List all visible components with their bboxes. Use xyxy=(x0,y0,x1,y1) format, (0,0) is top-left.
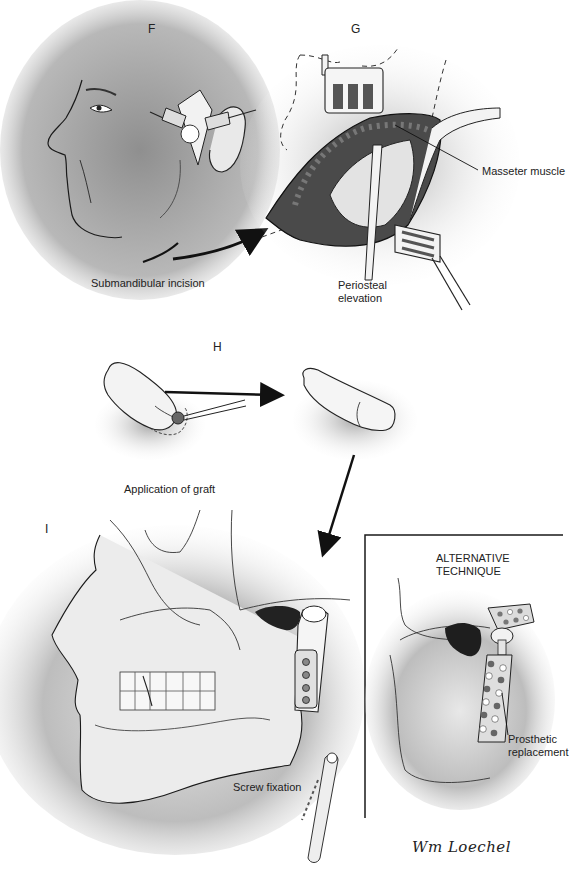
caption-submandibular-incision: Submandibular incision xyxy=(91,277,205,290)
panel-h-artwork xyxy=(95,363,417,548)
callout-prosthetic-replacement: Prosthetic replacement xyxy=(508,733,569,759)
panel-g-artwork xyxy=(240,45,520,310)
callout-masseter-muscle: Masseter muscle xyxy=(482,165,565,178)
callout-prosthetic-line-1: Prosthetic xyxy=(508,733,569,746)
panel-letter-h: H xyxy=(213,340,222,354)
panel-letter-f: F xyxy=(148,22,155,36)
inset-artwork xyxy=(365,578,555,810)
inset-title: ALTERNATIVE TECHNIQUE xyxy=(436,552,510,578)
panel-letter-g: G xyxy=(351,22,360,36)
teeth xyxy=(120,672,215,710)
callout-screw-fixation: Screw fixation xyxy=(233,781,301,794)
panel-f-artwork xyxy=(0,0,280,300)
inset-title-line-1: ALTERNATIVE xyxy=(436,552,510,565)
panel-letter-i: I xyxy=(45,522,48,536)
illustration-canvas xyxy=(0,0,577,869)
callout-prosthetic-line-2: replacement xyxy=(508,746,569,759)
caption-application-of-graft: Application of graft xyxy=(124,483,215,496)
artist-signature: Wm Loechel xyxy=(412,838,511,856)
caption-periosteal-elevation: Periosteal elevation xyxy=(338,279,398,305)
inset-title-line-2: TECHNIQUE xyxy=(436,565,510,578)
panel-i-artwork xyxy=(0,510,365,863)
